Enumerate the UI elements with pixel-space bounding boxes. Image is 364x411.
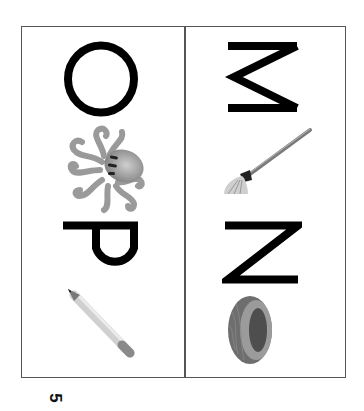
letter-p: [60, 218, 142, 276]
nest-icon: [222, 292, 282, 368]
letter-m: [224, 38, 302, 116]
mop-label: mop: [0, 0, 1, 1]
pencil-label: pencil: [0, 0, 1, 1]
letter-m-label: M: [0, 0, 1, 1]
column-divider: [184, 26, 186, 378]
pencil-icon: [62, 285, 142, 365]
letter-n-label: N: [0, 0, 1, 1]
letter-o-label: O: [0, 0, 1, 1]
page-number: 5: [45, 388, 65, 408]
mop-icon: [218, 124, 318, 194]
octopus-label: octopus: [0, 0, 1, 1]
nest-label: nest: [0, 0, 1, 1]
letter-p-label: P: [0, 0, 1, 1]
letter-o: [60, 38, 142, 120]
octopus-icon: [62, 124, 152, 214]
letter-n: [222, 218, 302, 288]
